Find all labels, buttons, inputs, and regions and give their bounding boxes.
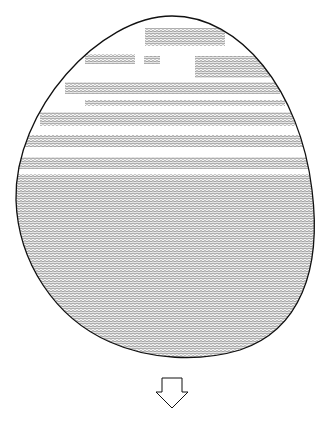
hatch-band [85, 100, 285, 106]
hatch-band [145, 28, 225, 46]
hatch-band [65, 82, 280, 94]
hatch-band [40, 112, 295, 126]
hatch-band [18, 157, 310, 169]
hatch-band [144, 56, 160, 64]
hatch-band [85, 54, 135, 64]
hatch-bands [0, 28, 323, 364]
hatch-band [195, 56, 270, 78]
hatch-band [25, 135, 305, 147]
down-arrow-icon [156, 378, 188, 408]
hatch-band [0, 174, 323, 364]
egg-diagram [0, 0, 323, 424]
